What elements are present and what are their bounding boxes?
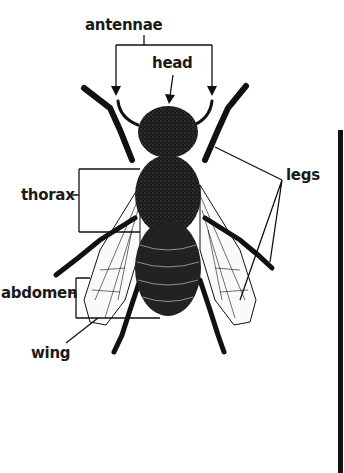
label-head: head [152,55,193,71]
bee-body [135,106,201,316]
label-antennae: antennae [85,17,162,33]
label-abdomen: abdomen [1,285,77,301]
page-edge-shadow [338,130,343,473]
label-thorax: thorax [21,187,75,203]
head-shape [138,106,198,158]
label-legs: legs [286,167,320,183]
arrowheads [111,86,217,104]
label-wing: wing [31,345,70,361]
